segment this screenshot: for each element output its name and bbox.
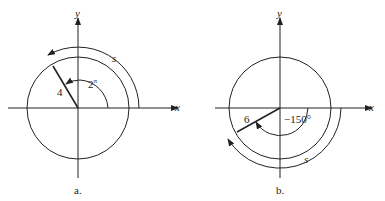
figure-b-caption: b. bbox=[276, 185, 284, 196]
figure-a-arc-label: s bbox=[112, 53, 116, 64]
figure-a-angle-label: 2π bbox=[88, 78, 97, 90]
figure-a-caption: a. bbox=[74, 185, 82, 196]
figure-b-diagram bbox=[215, 18, 372, 178]
figure: y x s 4 2π a. y x 6 −150° s b. bbox=[0, 0, 385, 201]
figure-b-radius-label: 6 bbox=[244, 114, 250, 125]
figure-a-radius-label: 4 bbox=[57, 87, 63, 98]
angle-superscript: π bbox=[94, 77, 98, 85]
figure-b-arc-label: s bbox=[304, 154, 308, 165]
figure-a-x-label: x bbox=[175, 102, 180, 113]
figure-b-x-label: x bbox=[369, 102, 374, 113]
figure-a-diagram bbox=[8, 18, 178, 178]
diagram-svg bbox=[0, 0, 385, 201]
figure-a-y-label: y bbox=[75, 8, 80, 19]
figure-b-angle-label: −150° bbox=[284, 114, 311, 125]
figure-b-y-label: y bbox=[277, 8, 282, 19]
